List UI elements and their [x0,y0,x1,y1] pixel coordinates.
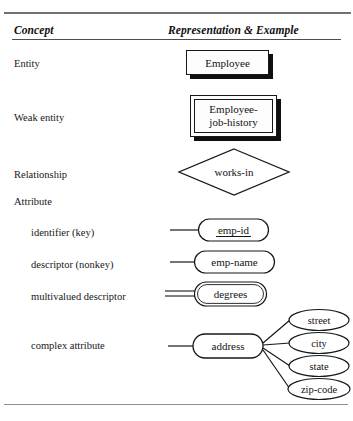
complex-attribute-figure: address street city state zip-code [168,310,353,402]
identifier-label: emp-id [218,224,250,236]
row-label-weak-entity: Weak entity [14,112,64,123]
branch-line-zip-code [263,350,290,389]
multivalued-label: degrees [214,288,248,300]
multivalued-descriptor-figure: degrees [165,280,280,308]
entity-box: Employee [186,50,269,75]
table-top-rule [4,12,351,14]
row-label-multivalued-descriptor: multivalued descriptor [31,291,126,302]
row-label-entity: Entity [14,58,40,69]
child-label-street: street [308,315,331,326]
entity-box-label: Employee [205,57,250,69]
row-label-identifier-key: identifier (key) [31,227,94,238]
column-header-representation: Representation & Example [168,24,299,36]
child-label-state: state [309,361,329,372]
table-header-rule [12,39,341,40]
er-notation-table: Concept Representation & Example Entity … [0,0,353,421]
table-bottom-rule [4,404,348,405]
row-label-relationship: Relationship [14,169,67,180]
row-label-attribute: Attribute [14,196,52,207]
weak-entity-inner-box: Employee- job-history [194,99,273,133]
relationship-figure: works-in [178,148,290,196]
descriptor-label: emp-name [211,256,258,268]
relationship-label: works-in [214,166,254,178]
row-label-descriptor-nonkey: descriptor (nonkey) [31,259,114,270]
row-label-complex-attribute: complex attribute [31,340,105,351]
weak-entity-label: Employee- job-history [209,103,257,129]
branch-line-city [263,343,290,345]
child-label-city: city [311,338,327,349]
column-header-concept: Concept [14,24,54,36]
complex-attribute-parent-label: address [212,340,245,352]
identifier-key-figure: emp-id [170,216,282,244]
branch-line-state [263,348,290,366]
child-label-zip-code: zip-code [301,384,337,395]
branch-line-street [263,320,290,343]
descriptor-figure: emp-name [170,248,288,276]
